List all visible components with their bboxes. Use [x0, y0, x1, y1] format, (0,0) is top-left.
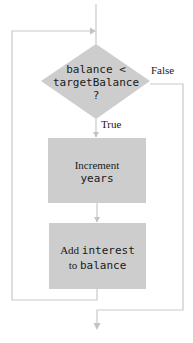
true-arrowhead-icon [93, 132, 99, 138]
increment-years-line-2: years [48, 172, 146, 186]
loop-arrowhead-icon [90, 28, 96, 35]
true-branch-label: True [101, 118, 121, 131]
add-interest-label: Add interest to balance [49, 243, 146, 273]
process-arrowhead-icon [94, 217, 100, 223]
add-interest-line-2-text: to [69, 259, 80, 271]
decision-line-2: targetBalance [41, 76, 151, 89]
decision-line-3: ? [41, 89, 151, 102]
add-interest-line-2-code: balance [80, 259, 126, 272]
increment-years-label: Increment years [48, 158, 146, 186]
decision-label: balance < targetBalance ? [41, 63, 151, 102]
false-branch-label: False [151, 64, 174, 77]
exit-arrowhead-icon [94, 323, 101, 330]
add-interest-line-1: Add interest [49, 243, 146, 258]
add-interest-line-2: to balance [49, 258, 146, 273]
increment-years-line-1: Increment [48, 158, 146, 172]
add-interest-line-1-code: interest [82, 244, 135, 257]
add-interest-line-1-text: Add [60, 244, 82, 256]
decision-line-1: balance < [41, 63, 151, 76]
